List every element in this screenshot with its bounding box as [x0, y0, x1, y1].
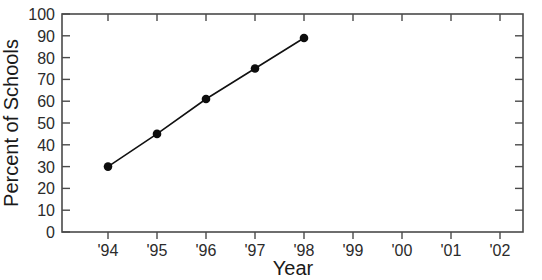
- line-chart: 0 10 20 30 40 50 60 70 80 90 100 '94 '95…: [0, 0, 542, 280]
- plot-frame: [62, 14, 523, 232]
- data-point: [153, 130, 162, 139]
- y-tick-label: 10: [37, 202, 55, 219]
- x-axis-ticks-top: [108, 14, 500, 21]
- y-tick-label: 30: [37, 159, 55, 176]
- y-tick-label: 90: [37, 28, 55, 45]
- x-axis-ticks: [108, 232, 500, 239]
- y-tick-label: 100: [28, 6, 55, 23]
- x-tick-label: '97: [245, 242, 266, 259]
- x-tick-label: '02: [490, 242, 511, 259]
- y-tick-label: 60: [37, 93, 55, 110]
- y-tick-label: 70: [37, 71, 55, 88]
- x-tick-label: '96: [196, 242, 217, 259]
- y-tick-label: 20: [37, 180, 55, 197]
- x-tick-label: '00: [392, 242, 413, 259]
- y-axis-title: Percent of Schools: [0, 39, 22, 207]
- data-point: [104, 162, 113, 171]
- x-tick-label: '01: [441, 242, 462, 259]
- y-tick-label: 40: [37, 137, 55, 154]
- data-point: [251, 64, 260, 73]
- x-axis-title: Year: [273, 257, 314, 279]
- x-tick-label: '94: [98, 242, 119, 259]
- x-tick-label: '99: [343, 242, 364, 259]
- chart-page: 0 10 20 30 40 50 60 70 80 90 100 '94 '95…: [0, 0, 542, 280]
- data-point: [300, 34, 309, 43]
- y-axis-ticks: [62, 14, 70, 232]
- y-tick-labels: 0 10 20 30 40 50 60 70 80 90 100: [28, 6, 55, 241]
- x-tick-label: '95: [147, 242, 168, 259]
- data-series: [104, 34, 309, 171]
- data-point: [202, 95, 211, 104]
- y-tick-label: 50: [37, 115, 55, 132]
- y-tick-label: 0: [46, 224, 55, 241]
- y-tick-label: 80: [37, 50, 55, 67]
- y-axis-ticks-right: [515, 36, 523, 210]
